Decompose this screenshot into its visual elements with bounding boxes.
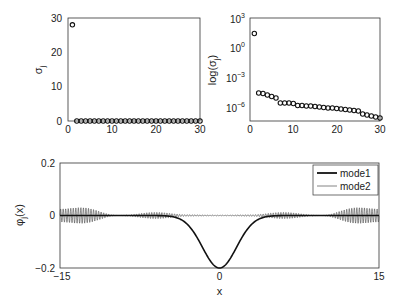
data-point (356, 109, 360, 113)
y-axis-label: φj(x) (13, 204, 28, 226)
data-points (252, 31, 382, 120)
tick-label: −0.2 (35, 263, 55, 274)
y-axis-label: σj (32, 65, 47, 74)
axes-frame (68, 18, 200, 121)
figure: 0 10 20 30 30 20 10 0 σj 0 10 20 30 103 … (0, 0, 402, 308)
tick-label: −15 (54, 271, 71, 282)
data-point (300, 103, 304, 107)
data-point (252, 31, 256, 35)
tick-label: 10 (51, 81, 63, 92)
data-point (326, 106, 330, 110)
tick-label: 30 (194, 124, 206, 135)
data-point (304, 104, 308, 108)
tick-label: 20 (51, 47, 63, 58)
tick-label: 20 (331, 124, 343, 135)
y-ticks: 103 100 10−3 10−6 (226, 12, 245, 114)
data-point (70, 23, 74, 27)
y-axis-label: log(σj) (206, 55, 221, 86)
data-point (352, 108, 356, 112)
tick-label: 100 (230, 41, 245, 54)
data-point (365, 113, 369, 117)
y-ticks: 0.2 0 −0.2 (35, 158, 55, 274)
tick-label: 10−6 (226, 101, 245, 114)
legend-label-mode1: mode1 (340, 168, 371, 179)
data-point (330, 106, 334, 110)
tick-label: 10 (287, 124, 299, 135)
data-point (295, 103, 299, 107)
data-points (70, 23, 202, 124)
data-point (339, 107, 343, 111)
tick-label: 0 (247, 124, 253, 135)
data-point (347, 108, 351, 112)
x-ticks: 0 10 20 30 (247, 124, 386, 135)
legend: mode1 mode2 (313, 165, 378, 195)
data-point (373, 115, 377, 119)
series-mode1 (60, 216, 379, 269)
plot-sigma-log: 0 10 20 30 103 100 10−3 10−6 log(σj) (206, 12, 386, 135)
tick-label: 30 (51, 13, 63, 24)
tick-label: 20 (150, 124, 162, 135)
data-point (308, 104, 312, 108)
data-point (261, 91, 265, 95)
data-point (291, 101, 295, 105)
data-point (313, 104, 317, 108)
data-point (287, 101, 291, 105)
data-point (274, 96, 278, 100)
x-axis-label: x (217, 285, 223, 297)
x-ticks: −15 0 15 (54, 271, 385, 282)
tick-label: 0 (65, 124, 71, 135)
data-point (369, 114, 373, 118)
data-point (256, 91, 260, 95)
tick-label: 10 (106, 124, 118, 135)
tick-label: 0 (49, 210, 55, 221)
y-ticks: 30 20 10 0 (51, 13, 63, 127)
svg-text:log(σj): log(σj) (206, 55, 221, 86)
tick-label: 103 (230, 12, 245, 25)
tick-label: 30 (374, 124, 386, 135)
svg-text:σj: σj (32, 65, 47, 74)
data-point (317, 105, 321, 109)
x-ticks: 0 10 20 30 (65, 124, 206, 135)
plot-modes: −15 0 15 0.2 0 −0.2 x φj(x) mode1 mode2 (13, 158, 385, 297)
tick-label: 10−3 (226, 71, 245, 84)
tick-label: 0 (217, 271, 223, 282)
axes-frame (250, 18, 380, 121)
tick-label: 0.2 (41, 158, 55, 169)
data-point (334, 106, 338, 110)
tick-label: 15 (373, 271, 385, 282)
legend-label-mode2: mode2 (340, 181, 371, 192)
data-point (278, 101, 282, 105)
data-point (282, 101, 286, 105)
svg-text:φj(x): φj(x) (13, 204, 28, 226)
data-point (343, 107, 347, 111)
data-point (360, 112, 364, 116)
data-point (321, 105, 325, 109)
data-point (265, 93, 269, 97)
plot-sigma-linear: 0 10 20 30 30 20 10 0 σj (32, 13, 206, 135)
data-point (269, 94, 273, 98)
tick-label: 0 (56, 116, 62, 127)
